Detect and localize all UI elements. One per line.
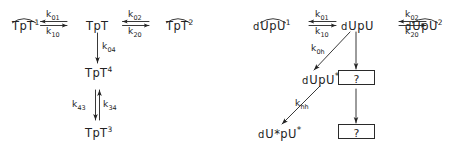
rate-constant-k0h: k0h: [311, 44, 325, 55]
species-label: TpT: [85, 66, 108, 80]
species-tpt-3: TpT3: [85, 126, 112, 139]
unknown-box-label: ?: [354, 127, 360, 140]
species-label: U*pU: [265, 127, 296, 141]
rate-constant-k04-left: k04: [102, 42, 116, 53]
species-superscript: 3: [108, 125, 113, 134]
unknown-box-label: ?: [354, 73, 360, 86]
rate-constant-k10-left: k10: [46, 27, 60, 38]
species-dupu-star: dUpU*: [302, 72, 339, 86]
arrow-layer: [0, 0, 453, 150]
rate-constant-k10-right: k10: [315, 27, 329, 38]
species-prefix: d: [258, 129, 264, 140]
rate-constant-k01-right: k01: [315, 10, 329, 21]
arc-icon: [165, 16, 191, 24]
rate-constant-k43-left: k43: [72, 100, 86, 111]
species-dustar-pustar: dU*pU*: [258, 126, 301, 140]
arc-icon: [259, 16, 287, 24]
rate-constant-k01-left: k01: [46, 10, 60, 21]
species-superscript: *: [297, 125, 302, 135]
species-dupu-1: d UpU 1: [253, 19, 290, 32]
species-prefix: d: [341, 21, 347, 32]
species-tpt-2: TpT 2: [166, 19, 193, 32]
rate-constant-k34-left: k34: [103, 100, 117, 111]
species-label: TpT: [86, 19, 109, 33]
rate-constant-k20-right: k20: [405, 27, 419, 38]
rate-constant-k02-left: k02: [128, 10, 142, 21]
species-label: UpU: [309, 73, 334, 87]
species-prefix: d: [302, 75, 308, 86]
arc-over-dupu-1: UpU: [260, 21, 285, 33]
unknown-box-2: ?: [338, 124, 375, 139]
arc-over-tpt-1: TpT: [12, 21, 35, 33]
species-tpt-4: TpT4: [85, 66, 112, 79]
rate-constant-khh: khh: [295, 99, 309, 110]
unknown-box-1: ?: [338, 70, 375, 85]
reaction-scheme-figure: TpT 1 TpT TpT 2 TpT4 TpT3 k01 k10 k02 k2…: [0, 0, 453, 150]
rate-constant-k20-left: k20: [128, 27, 142, 38]
rate-constant-k02-right: k02: [405, 10, 419, 21]
arc-over-tpt-2: TpT: [166, 21, 189, 33]
species-superscript: 4: [108, 65, 113, 74]
species-label: TpT: [85, 126, 108, 140]
species-tpt-0: TpT: [86, 19, 109, 32]
species-dupu-0: dUpU: [341, 19, 374, 32]
arc-icon: [11, 16, 37, 24]
species-label: UpU: [348, 19, 373, 33]
species-tpt-1: TpT 1: [12, 19, 39, 32]
